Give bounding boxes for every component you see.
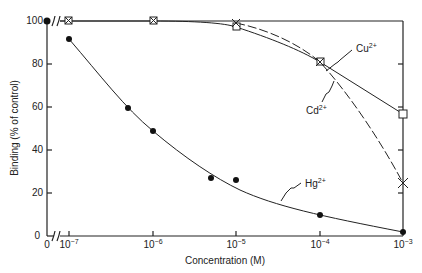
svg-text:10−7: 10−7 bbox=[59, 238, 78, 250]
x-tick-label: 10 bbox=[143, 239, 155, 250]
series-labels: Cu2+ Cd2+ Hg2+ bbox=[281, 42, 377, 201]
y-tick-label: 20 bbox=[32, 187, 44, 198]
axes bbox=[47, 16, 403, 241]
hg-curve bbox=[69, 39, 403, 232]
cd-label: Cd2+ bbox=[306, 104, 327, 116]
svg-text:10−4: 10−4 bbox=[310, 238, 329, 250]
binding-chart: 100 80 60 40 20 0 0 10−7 10−6 10−5 10−4 … bbox=[0, 0, 422, 273]
svg-text:10−6: 10−6 bbox=[143, 238, 162, 250]
y-tick-labels: 100 80 60 40 20 0 bbox=[26, 15, 43, 241]
y-tick-label: 100 bbox=[26, 15, 43, 26]
x-tick-label: 10 bbox=[226, 239, 238, 250]
x-tick-label: 10 bbox=[310, 239, 322, 250]
x-tick-label: 10 bbox=[59, 239, 71, 250]
x-tick-label: 10 bbox=[393, 239, 405, 250]
cu-label: Cu2+ bbox=[356, 42, 377, 54]
cd-curve bbox=[236, 23, 403, 183]
x-tick-labels: 0 10−7 10−6 10−5 10−4 10−3 bbox=[44, 238, 412, 250]
hg-label: Hg2+ bbox=[305, 177, 326, 189]
cu-curve bbox=[60, 21, 403, 114]
svg-text:10−3: 10−3 bbox=[393, 238, 412, 250]
y-tick-label: 80 bbox=[32, 58, 44, 69]
y-tick-label: 40 bbox=[32, 144, 44, 155]
svg-text:10−5: 10−5 bbox=[226, 238, 245, 250]
x-axis-title: Concentration (M) bbox=[185, 255, 265, 266]
y-tick-label: 0 bbox=[34, 230, 40, 241]
x-tick-label: 0 bbox=[44, 239, 50, 250]
y-axis-title: Binding (% of control) bbox=[9, 80, 20, 176]
y-tick-label: 60 bbox=[32, 101, 44, 112]
